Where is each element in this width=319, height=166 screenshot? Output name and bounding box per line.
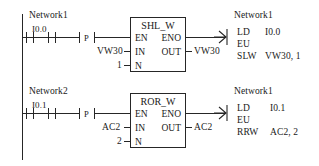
rung-1-contact-1-address: I0.0 [32, 24, 47, 34]
rung-1-il-op-2: EU [237, 39, 250, 49]
rung-2-contact-1[interactable] [26, 108, 34, 119]
rung-1-contact-1[interactable] [26, 32, 34, 43]
rung-1-pin-n: N [135, 61, 142, 71]
rung-2-in-stub [124, 127, 130, 128]
rung-2-transition-label: P [84, 109, 89, 119]
rung-1-network-label: Network1 [29, 10, 68, 20]
rung-2-contact-1-address: I0.1 [32, 100, 47, 110]
rung-1-pin-en: EN [135, 33, 148, 43]
rung-1-il-operand-3: VW30, 1 [265, 51, 301, 61]
ladder-diagram-page: Network1 I0.0 P SHL_W EN ENO IN O [0, 0, 319, 166]
rung-2-output-arrow [212, 104, 230, 122]
rung-1-pin-out: OUT [161, 47, 181, 57]
rung-2-il-network-label: Network1 [234, 86, 273, 96]
rung-2-in-value: AC2 [102, 122, 120, 132]
rung-2-n-value: 2 [117, 136, 122, 146]
rung-1-out-value: VW30 [194, 46, 220, 56]
rung-1-n-stub [124, 65, 130, 66]
rung-2-pin-en: EN [135, 109, 148, 119]
left-power-rail [22, 14, 23, 160]
rung-1-output-arrow [212, 28, 230, 46]
rung-2-out-value: AC2 [194, 122, 212, 132]
rung-1-in-stub [124, 51, 130, 52]
rung-1-out-stub [186, 51, 192, 52]
rung-2-il-op-3: RRW [237, 127, 258, 137]
rung-1-pin-eno: ENO [161, 33, 181, 43]
rung-2-network-label: Network2 [29, 86, 68, 96]
rung-1-pin-in: IN [135, 47, 145, 57]
rung-1-block-title: SHL_W [131, 20, 185, 31]
rung-1-il-op-1: LD [237, 27, 250, 37]
rung-2-pin-n: N [135, 137, 142, 147]
rung-1-n-value: 1 [117, 60, 122, 70]
rung-1-il-operand-1: I0.0 [265, 27, 280, 37]
rung-1-transition-label: P [84, 33, 89, 43]
rung-2-il-operand-3: AC2, 2 [270, 127, 298, 137]
rung-2-n-stub [124, 141, 130, 142]
rung-2-block-title: ROR_W [131, 96, 185, 107]
rung-2-wire-mid [94, 113, 131, 114]
rung-1-il-op-3: SLW [237, 51, 257, 61]
rung-2-pin-in: IN [135, 123, 145, 133]
rung-2-il-op-2: EU [237, 115, 250, 125]
rung-2-pin-eno: ENO [161, 109, 181, 119]
rung-1-function-block[interactable]: SHL_W EN ENO IN OUT N [130, 17, 186, 72]
rung-2-il-operand-1: I0.1 [270, 103, 285, 113]
rung-1-wire-mid [94, 37, 131, 38]
rung-2-function-block[interactable]: ROR_W EN ENO IN OUT N [130, 93, 186, 148]
rung-1-in-value: VW30 [97, 46, 123, 56]
rung-2-il-op-1: LD [237, 103, 250, 113]
rung-1-contact-2[interactable] [48, 32, 56, 43]
rung-2-out-stub [186, 127, 192, 128]
rung-2-contact-2[interactable] [48, 108, 56, 119]
rung-2-pin-out: OUT [161, 123, 181, 133]
rung-1-il-network-label: Network1 [234, 10, 273, 20]
